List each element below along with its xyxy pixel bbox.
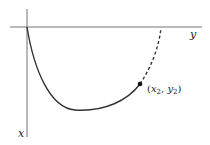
diagram-canvas: y x (x2, y2) bbox=[0, 0, 210, 145]
y-axis-label: y bbox=[189, 28, 197, 41]
dashed-curve bbox=[140, 28, 161, 84]
x-axis-label: x bbox=[18, 127, 25, 140]
point-label: (x2, y2) bbox=[147, 83, 182, 96]
solid-curve bbox=[27, 27, 140, 110]
point-marker bbox=[138, 82, 143, 87]
